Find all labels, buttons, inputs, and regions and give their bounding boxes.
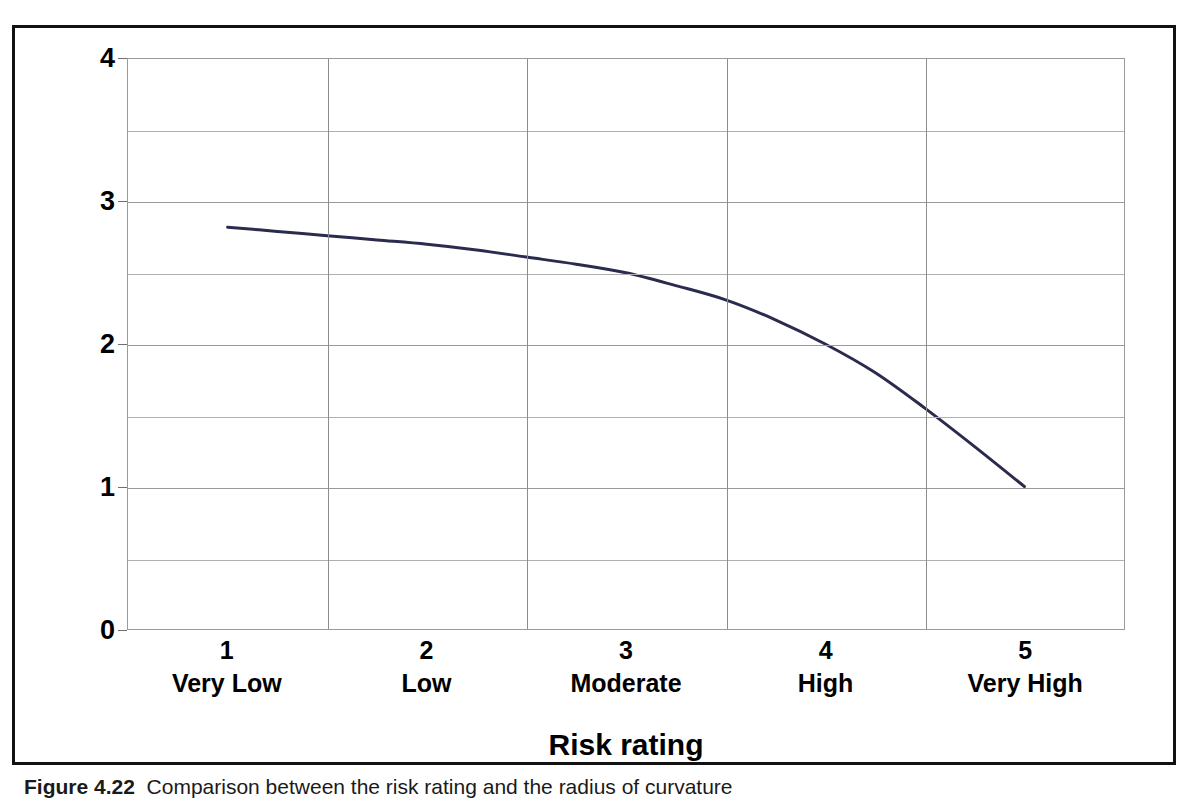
x-axis-category: 5Very High [925,636,1125,702]
x-axis-category: 2Low [327,636,527,702]
gridline-horizontal-minor [128,417,1124,418]
x-axis-category-number: 1 [127,636,327,665]
gridline-horizontal-minor [128,274,1124,275]
y-axis-tick-label: 1 [23,474,115,501]
x-axis-tick-labels: 1Very Low2Low3Moderate4High5Very High [127,636,1125,702]
y-axis-tick-mark [118,201,127,202]
y-axis-tick-label: 3 [23,188,115,215]
gridline-horizontal [128,488,1124,489]
x-axis-category-name: Low [327,665,527,703]
x-axis-category: 3Moderate [526,636,726,702]
x-axis-category-name: Moderate [526,665,726,703]
x-axis-category-number: 3 [526,636,726,665]
gridline-horizontal-minor [128,560,1124,561]
figure-caption-text: Comparison between the risk rating and t… [147,775,733,798]
gridline-vertical [926,59,927,629]
figure-caption: Figure 4.22 Comparison between the risk … [24,775,1164,799]
x-axis-category-number: 2 [327,636,527,665]
y-axis-tick-label: 2 [23,331,115,358]
y-axis-tick-mark [118,58,127,59]
gridline-horizontal [128,345,1124,346]
gridline-horizontal [128,202,1124,203]
gridline-vertical [527,59,528,629]
y-axis-tick-mark [118,344,127,345]
x-axis-category: 4High [726,636,926,702]
x-axis-title: Risk rating [127,728,1125,762]
y-axis-tick-label: 0 [23,617,115,644]
y-axis-tick-mark [118,630,127,631]
plot-area [127,58,1125,630]
x-axis-category: 1Very Low [127,636,327,702]
y-axis-tick-label: 4 [23,45,115,72]
x-axis-category-number: 5 [925,636,1125,665]
gridline-vertical [727,59,728,629]
y-axis-tick-mark [118,487,127,488]
series-line-radius-of-curvature [128,59,1124,629]
figure-frame: Radius of curvature/ width 01234 1Very L… [12,25,1176,765]
x-axis-category-name: Very Low [127,665,327,703]
gridline-vertical [328,59,329,629]
x-axis-category-number: 4 [726,636,926,665]
gridline-horizontal-minor [128,131,1124,132]
figure-caption-label: Figure 4.22 [24,775,135,798]
x-axis-category-name: Very High [925,665,1125,703]
x-axis-category-name: High [726,665,926,703]
